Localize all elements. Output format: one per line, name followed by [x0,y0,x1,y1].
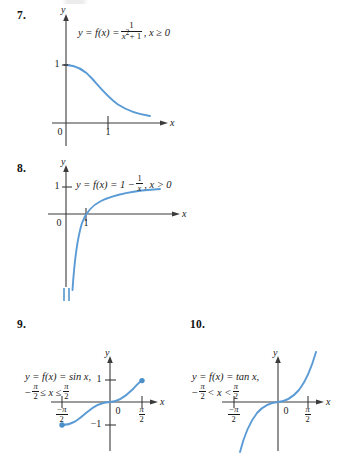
problem-8-y-axis-label: y [61,156,65,167]
problem-8-domain: , x > 0 [144,179,172,190]
problem-7-y-tick-1-label: 1 [52,58,62,69]
problem-10-x-axis-label: x [326,396,330,407]
y-axis-arrowhead [63,14,69,21]
problem-8-x-axis-label: x [182,208,186,219]
problem-7-y-axis-label: y [61,4,65,15]
x-axis-arrowhead [160,120,168,125]
problem-7: 7. y = f(x) =1x2+ 1, x ≥ 0 [0,0,343,150]
problem-9-x-axis-label: x [160,396,164,407]
problem-9-frac-left: π2 [32,382,38,401]
problem-8-fraction: 1x [136,174,142,193]
problem-7-equation: y = f(x) =1x2+ 1, x ≥ 0 [78,23,170,43]
problem-9-equation-line2: −π2≤ x ≤π2 [25,384,71,403]
problem-10-x-tick-pi-over-2-label: π2 [303,407,312,426]
problem-8: 8. y = f(x) = 1 −1x, x > 0 y x 0 1 1 [0,155,343,290]
problem-10-frac-left: π2 [199,382,205,401]
problem-7-equation-lhs: y = f(x) = [78,27,119,38]
problem-8-frac-numerator: 1 [136,174,142,183]
problem-10-x-tick-neg-pi-over-2-label: −π2 [226,407,241,426]
problem-10-equation-line2: −π2< x <π2 [192,384,241,403]
problem-10-origin-label: 0 [281,405,291,416]
problem-7-frac-numerator: 1 [121,21,142,30]
problem-8-equation: y = f(x) = 1 −1x, x > 0 [76,176,172,195]
problem-8-y-tick-1-label: 1 [52,180,62,191]
problem-9-y-tick-neg-1-label: −1 [89,418,103,429]
problem-9-x-tick-pi-over-2-label: π2 [137,407,146,426]
problem-7-x-axis-label: x [170,117,174,128]
problem-10-y-axis-label: y [273,347,277,358]
problem-10-frac-right: π2 [233,382,239,401]
problem-9: 9. y = f(x) = sin x, [0,318,180,453]
textbook-page: 7. y = f(x) =1x2+ 1, x ≥ 0 [0,0,343,453]
curve-reciprocal-quadratic [67,65,151,116]
problem-9-y-axis-label: y [105,347,109,358]
problem-8-x-tick-1-label: 1 [81,217,91,228]
problem-10-figure: y = f(x) = tan x, −π2< x <π2 y x 0 −π2 π… [178,318,343,453]
curve-one-minus-reciprocal [73,189,161,290]
problem-7-domain: , x ≥ 0 [144,27,170,38]
problem-8-frac-denominator: x [136,183,142,193]
problem-8-equation-lhs: y = f(x) = 1 − [76,179,135,190]
problem-9-figure: y = f(x) = sin x, −π2≤ x ≤π2 y x 0 1 −1 … [0,318,180,453]
problem-8-origin-label: 0 [54,217,64,228]
x-axis-arrowhead [150,399,158,404]
problem-7-fraction: 1x2+ 1 [121,21,142,41]
problem-9-origin-label: 0 [113,405,123,416]
x-axis-arrowhead [316,399,324,404]
problem-10: 10. y = f(x) = tan x, −π2< x <π2 y [178,318,343,453]
problem-7-x-tick-1-label: 1 [103,126,113,137]
problem-9-x-tick-neg-pi-over-2-label: −π2 [54,407,69,426]
problem-7-origin-label: 0 [55,126,65,137]
problem-9-frac-right: π2 [63,382,69,401]
endpoint-dot-right [139,378,144,383]
problem-8-figure: y = f(x) = 1 −1x, x > 0 y x 0 1 1 [0,155,240,290]
x-axis-arrowhead [172,211,180,216]
problem-9-y-tick-1-label: 1 [94,373,104,384]
problem-7-frac-denominator: x2+ 1 [121,31,142,42]
problem-7-figure: y = f(x) =1x2+ 1, x ≥ 0 y x 0 1 1 [0,0,240,150]
